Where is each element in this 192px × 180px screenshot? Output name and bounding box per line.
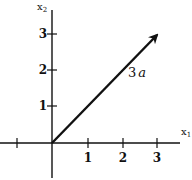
x-tick-label-2: 2 xyxy=(119,151,127,165)
x-tick-label-3: 3 xyxy=(153,151,161,165)
x-axis-label: x1 xyxy=(181,126,191,139)
y-tick-label-1: 1 xyxy=(39,99,47,113)
y-tick-label-3: 3 xyxy=(39,27,47,41)
y-axis-label-sub: 2 xyxy=(43,6,47,14)
x-axis-label-sub: 1 xyxy=(187,131,191,139)
y-tick-label-2: 2 xyxy=(39,63,47,77)
vector-label: 3a xyxy=(128,65,146,80)
y-axis-label: x2 xyxy=(37,1,47,14)
vector-label-coef: 3 xyxy=(128,65,136,80)
vector-arrow xyxy=(52,35,157,143)
vector-label-var: a xyxy=(138,65,146,80)
vector-diagram: 1 2 3 1 2 3 x2 x1 3a xyxy=(0,0,192,180)
x-tick-label-1: 1 xyxy=(84,151,92,165)
